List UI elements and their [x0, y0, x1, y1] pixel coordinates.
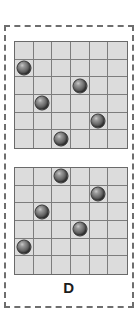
- grid-cell[interactable]: [71, 130, 90, 148]
- grid-cell[interactable]: [52, 77, 71, 95]
- grid-cell[interactable]: [71, 186, 90, 204]
- grid-cell[interactable]: [34, 130, 53, 148]
- grid-cell[interactable]: [90, 95, 109, 113]
- grid-cell[interactable]: [52, 168, 71, 186]
- grid-cell[interactable]: [34, 60, 53, 78]
- grid-cell[interactable]: [71, 95, 90, 113]
- grid-cell[interactable]: [15, 77, 34, 95]
- grid-cell[interactable]: [108, 95, 127, 113]
- grid-cell[interactable]: [108, 77, 127, 95]
- grid-cell[interactable]: [15, 42, 34, 60]
- panel-label: D: [6, 279, 132, 296]
- grid-cell[interactable]: [52, 256, 71, 274]
- sphere-marker: [16, 60, 31, 75]
- bottom-grid[interactable]: [14, 167, 128, 275]
- grid-cell[interactable]: [52, 95, 71, 113]
- grid-cell[interactable]: [71, 239, 90, 257]
- grid-cell[interactable]: [108, 42, 127, 60]
- grid-cell[interactable]: [15, 256, 34, 274]
- grid-cell[interactable]: [52, 239, 71, 257]
- grid-cell[interactable]: [90, 77, 109, 95]
- sphere-marker: [35, 96, 50, 111]
- grid-cell[interactable]: [90, 168, 109, 186]
- grid-cell[interactable]: [15, 95, 34, 113]
- grid-cell[interactable]: [52, 60, 71, 78]
- grid-cell[interactable]: [108, 239, 127, 257]
- grid-cell[interactable]: [34, 239, 53, 257]
- grid-cell[interactable]: [52, 186, 71, 204]
- grid-cell[interactable]: [34, 95, 53, 113]
- grid-cell[interactable]: [34, 42, 53, 60]
- grid-cell[interactable]: [71, 256, 90, 274]
- grid-cell[interactable]: [15, 113, 34, 131]
- grid-cell[interactable]: [34, 256, 53, 274]
- grid-cell[interactable]: [90, 256, 109, 274]
- grid-cell[interactable]: [52, 113, 71, 131]
- sphere-marker: [16, 239, 31, 254]
- grid-cell[interactable]: [15, 60, 34, 78]
- grid-cell[interactable]: [71, 203, 90, 221]
- grid-cell[interactable]: [108, 186, 127, 204]
- grid-cell[interactable]: [90, 203, 109, 221]
- grid-cell[interactable]: [52, 221, 71, 239]
- grid-cell[interactable]: [71, 77, 90, 95]
- grid-cell[interactable]: [34, 113, 53, 131]
- grid-cell[interactable]: [34, 186, 53, 204]
- grid-cell[interactable]: [108, 60, 127, 78]
- grid-cell[interactable]: [15, 221, 34, 239]
- grid-cell[interactable]: [108, 130, 127, 148]
- grid-cell[interactable]: [34, 77, 53, 95]
- sphere-marker: [54, 169, 69, 184]
- grid-cell[interactable]: [15, 203, 34, 221]
- grid-cell[interactable]: [34, 168, 53, 186]
- grid-cell[interactable]: [90, 130, 109, 148]
- grid-cell[interactable]: [90, 42, 109, 60]
- grid-cell[interactable]: [90, 186, 109, 204]
- sphere-marker: [35, 204, 50, 219]
- grid-cell[interactable]: [15, 186, 34, 204]
- grid-cell[interactable]: [52, 203, 71, 221]
- grid-cell[interactable]: [90, 113, 109, 131]
- option-panel-d[interactable]: D: [4, 25, 134, 308]
- grid-cell[interactable]: [34, 203, 53, 221]
- sphere-marker: [72, 78, 87, 93]
- grid-cell[interactable]: [71, 60, 90, 78]
- grid-cell[interactable]: [15, 168, 34, 186]
- sphere-marker: [72, 222, 87, 237]
- grid-cell[interactable]: [90, 239, 109, 257]
- grid-cell[interactable]: [52, 42, 71, 60]
- sphere-marker: [91, 186, 106, 201]
- grid-cell[interactable]: [52, 130, 71, 148]
- grid-cell[interactable]: [71, 221, 90, 239]
- grid-cell[interactable]: [15, 130, 34, 148]
- grid-cell[interactable]: [71, 42, 90, 60]
- grid-cell[interactable]: [108, 168, 127, 186]
- grid-cell[interactable]: [90, 221, 109, 239]
- grid-cell[interactable]: [108, 203, 127, 221]
- grid-cell[interactable]: [108, 256, 127, 274]
- grid-cell[interactable]: [71, 113, 90, 131]
- grid-cell[interactable]: [108, 113, 127, 131]
- top-grid[interactable]: [14, 41, 128, 149]
- grid-cell[interactable]: [108, 221, 127, 239]
- grid-cell[interactable]: [71, 168, 90, 186]
- grid-cell[interactable]: [34, 221, 53, 239]
- sphere-marker: [91, 113, 106, 128]
- grid-cell[interactable]: [15, 239, 34, 257]
- sphere-marker: [54, 132, 69, 147]
- grid-cell[interactable]: [90, 60, 109, 78]
